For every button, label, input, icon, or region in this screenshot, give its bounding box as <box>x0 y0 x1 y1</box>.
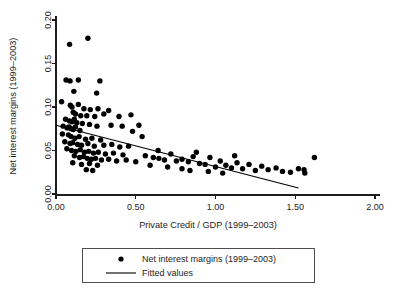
data-point <box>95 163 100 168</box>
data-point <box>93 156 98 161</box>
data-point <box>87 161 92 166</box>
y-tick-label: 0.00 <box>43 185 53 203</box>
data-point <box>246 162 251 167</box>
data-point <box>108 123 113 128</box>
data-point <box>296 166 301 171</box>
data-point <box>76 77 81 82</box>
data-point <box>95 106 100 111</box>
data-point <box>103 151 108 156</box>
y-tick-label: 0.05 <box>43 142 53 160</box>
data-point <box>109 142 114 147</box>
data-point <box>130 129 135 134</box>
data-point <box>273 165 278 170</box>
data-point <box>78 113 83 118</box>
data-point <box>94 90 99 95</box>
data-point <box>101 111 106 116</box>
data-point <box>72 153 77 158</box>
data-point <box>79 162 84 167</box>
data-point <box>114 158 119 163</box>
y-axis-title: Net interest margins (1999–2003) <box>8 38 18 175</box>
legend-label-fit: Fitted values <box>142 268 194 278</box>
data-point <box>207 155 212 160</box>
data-point <box>98 137 103 142</box>
legend-dot-icon <box>118 256 123 261</box>
x-tick-label: 1.00 <box>207 202 225 212</box>
data-point <box>84 113 89 118</box>
legend-label-points: Net interest margins (1999–2003) <box>142 254 276 264</box>
data-point <box>301 167 306 172</box>
data-point <box>143 153 148 158</box>
data-point <box>69 104 74 109</box>
data-point <box>84 167 89 172</box>
data-point <box>128 112 133 117</box>
data-point <box>106 157 111 162</box>
scatter-point-group <box>59 36 317 176</box>
data-point <box>312 155 317 160</box>
data-point <box>76 102 81 107</box>
x-tick-label: 2.00 <box>366 202 384 212</box>
data-point <box>139 134 144 139</box>
data-point <box>120 152 125 157</box>
data-point <box>96 150 101 155</box>
data-point <box>162 157 167 162</box>
data-point <box>64 146 69 151</box>
data-point <box>90 168 95 173</box>
x-axis-ticks: 0.000.501.001.502.00 <box>47 195 384 212</box>
data-point <box>70 140 75 145</box>
data-point <box>73 124 78 129</box>
x-tick-label: 0.00 <box>47 202 65 212</box>
data-point <box>174 158 179 163</box>
data-point <box>117 144 122 149</box>
data-point <box>85 141 90 146</box>
x-tick-label: 0.50 <box>127 202 145 212</box>
data-point <box>106 108 111 113</box>
data-point <box>67 78 72 83</box>
y-tick-label: 0.20 <box>43 11 53 29</box>
data-point <box>223 163 228 168</box>
data-point <box>89 136 94 141</box>
fitted-values-line <box>56 125 298 188</box>
data-point <box>70 160 75 165</box>
plot-canvas: 0.000.050.100.150.20 0.000.501.001.502.0… <box>0 0 396 290</box>
data-point <box>92 114 97 119</box>
data-point <box>73 111 78 116</box>
data-point <box>67 42 72 47</box>
y-axis-ticks: 0.000.050.100.150.20 <box>43 11 56 203</box>
x-tick-label: 1.50 <box>286 202 304 212</box>
data-point <box>240 166 245 171</box>
data-point <box>190 154 195 159</box>
y-tick-label: 0.15 <box>43 55 53 73</box>
data-point <box>111 150 116 155</box>
data-point <box>234 160 239 165</box>
data-point <box>97 78 102 83</box>
data-point <box>71 89 76 94</box>
data-point <box>123 157 128 162</box>
data-point <box>288 170 293 175</box>
data-point <box>280 169 285 174</box>
data-point <box>156 156 161 161</box>
data-point <box>59 99 64 104</box>
data-point <box>87 122 92 127</box>
data-point <box>80 121 85 126</box>
data-point <box>232 153 237 158</box>
data-point <box>92 143 97 148</box>
data-point <box>86 149 91 154</box>
data-point <box>119 123 124 128</box>
data-point <box>91 150 96 155</box>
data-point <box>253 168 258 173</box>
data-point <box>116 114 121 119</box>
data-point <box>81 106 86 111</box>
data-point <box>133 159 138 164</box>
scatter-plot-figure: 0.000.050.100.150.20 0.000.501.001.502.0… <box>0 0 396 290</box>
data-point <box>101 143 106 148</box>
data-point <box>220 170 225 175</box>
data-point <box>136 123 141 128</box>
data-point <box>218 158 223 163</box>
data-point <box>265 167 270 172</box>
y-tick-label: 0.10 <box>43 98 53 116</box>
data-point <box>187 168 192 173</box>
data-point <box>259 163 264 168</box>
data-point <box>194 150 199 155</box>
data-point <box>60 131 65 136</box>
data-point <box>62 139 67 144</box>
